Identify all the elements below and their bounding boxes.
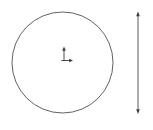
origin-vertical-arrow-icon [62,47,66,51]
circle-outline-group [12,12,113,113]
origin-horizontal-arrow-icon [69,59,73,62]
origin-axes-marker [61,47,73,63]
vertical-dimension-line [136,12,140,115]
dimension-arrow-down-icon [136,109,140,114]
technical-drawing-canvas [0,0,153,130]
dimension-arrow-up-icon [136,12,140,17]
drawing-svg [0,0,153,130]
circle-outline [12,12,113,113]
